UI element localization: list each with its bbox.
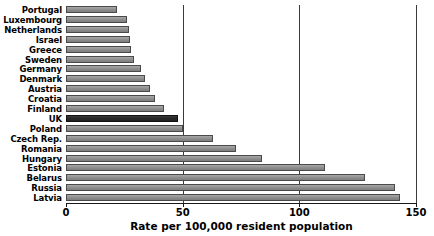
- chart-row: Czech Rep.: [66, 134, 416, 144]
- x-tick-label-50: 50: [176, 207, 190, 218]
- bar-austria: [66, 85, 150, 92]
- chart-row: Romania: [66, 144, 416, 154]
- bar-latvia: [66, 194, 400, 201]
- x-tick-label-150: 150: [406, 207, 427, 218]
- chart-row: Germany: [66, 64, 416, 74]
- category-label-croatia: Croatia: [28, 94, 62, 104]
- bar-luxembourg: [66, 16, 127, 23]
- bar-belarus: [66, 174, 365, 181]
- chart-row: Austria: [66, 84, 416, 94]
- chart-row: Netherlands: [66, 25, 416, 35]
- bar-finland: [66, 105, 164, 112]
- chart-row: Portugal: [66, 5, 416, 15]
- category-label-sweden: Sweden: [25, 55, 62, 65]
- category-label-greece: Greece: [29, 45, 62, 55]
- category-label-belarus: Belarus: [27, 173, 63, 183]
- category-label-israel: Israel: [36, 35, 62, 45]
- category-label-hungary: Hungary: [22, 154, 62, 164]
- bar-uk: [66, 115, 178, 122]
- chart-row: Sweden: [66, 55, 416, 65]
- bar-israel: [66, 36, 130, 43]
- bar-hungary: [66, 155, 262, 162]
- bar-greece: [66, 46, 131, 53]
- category-label-luxembourg: Luxembourg: [3, 15, 62, 25]
- category-label-netherlands: Netherlands: [4, 25, 62, 35]
- chart-row: Latvia: [66, 193, 416, 203]
- chart-row: Croatia: [66, 94, 416, 104]
- bar-portugal: [66, 6, 117, 13]
- x-tick-label-100: 100: [289, 207, 310, 218]
- bar-romania: [66, 145, 236, 152]
- chart-row: UK: [66, 114, 416, 124]
- category-label-latvia: Latvia: [33, 193, 62, 203]
- chart-row: Estonia: [66, 163, 416, 173]
- category-label-romania: Romania: [21, 144, 62, 154]
- category-label-russia: Russia: [31, 183, 62, 193]
- bar-poland: [66, 125, 183, 132]
- chart-row: Russia: [66, 183, 416, 193]
- bar-sweden: [66, 56, 134, 63]
- bar-germany: [66, 65, 141, 72]
- bar-croatia: [66, 95, 155, 102]
- bar-russia: [66, 184, 395, 191]
- gridline-150: [416, 5, 417, 204]
- chart-row: Finland: [66, 104, 416, 114]
- category-label-uk: UK: [49, 114, 62, 124]
- bar-estonia: [66, 164, 325, 171]
- category-label-austria: Austria: [28, 84, 62, 94]
- category-label-estonia: Estonia: [27, 163, 62, 173]
- bar-czech-rep: [66, 135, 213, 142]
- x-tick-label-0: 0: [63, 207, 70, 218]
- chart-row: Poland: [66, 124, 416, 134]
- bar-denmark: [66, 75, 145, 82]
- category-label-portugal: Portugal: [22, 5, 62, 15]
- chart-row: Greece: [66, 45, 416, 55]
- chart-row: Hungary: [66, 154, 416, 164]
- horizontal-bar-chart: Rate per 100,000 resident population Por…: [0, 0, 434, 236]
- chart-row: Denmark: [66, 74, 416, 84]
- chart-row: Israel: [66, 35, 416, 45]
- bar-netherlands: [66, 26, 129, 33]
- category-label-poland: Poland: [30, 124, 62, 134]
- category-label-finland: Finland: [27, 104, 62, 114]
- chart-row: Luxembourg: [66, 15, 416, 25]
- category-label-denmark: Denmark: [19, 74, 62, 84]
- category-label-czech-rep: Czech Rep.: [10, 134, 62, 144]
- chart-row: Belarus: [66, 173, 416, 183]
- category-label-germany: Germany: [20, 64, 62, 74]
- x-axis-title: Rate per 100,000 resident population: [66, 220, 417, 232]
- x-axis-baseline: [66, 203, 417, 204]
